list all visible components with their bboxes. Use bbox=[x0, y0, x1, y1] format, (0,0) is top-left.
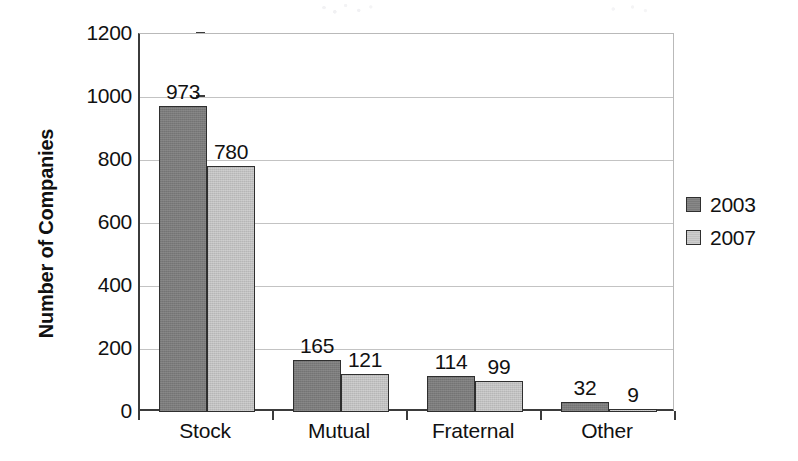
legend-swatch-icon bbox=[686, 230, 701, 245]
legend-label: 2007 bbox=[710, 227, 756, 248]
y-axis-tick-label: 800 bbox=[62, 148, 132, 169]
legend-item-2007[interactable]: 2007 bbox=[686, 221, 756, 254]
x-axis-category-label-stock: Stock bbox=[138, 419, 272, 443]
x-axis-tick-mark bbox=[674, 411, 676, 420]
x-axis-category-label-fraternal: Fraternal bbox=[406, 419, 540, 443]
bar-mutual-2007 bbox=[341, 374, 389, 412]
y-axis-tick-label: 0 bbox=[62, 400, 132, 421]
bar-other-2007 bbox=[609, 409, 657, 412]
legend-swatch-icon bbox=[686, 197, 701, 212]
y-axis-tick-label: 200 bbox=[62, 337, 132, 358]
y-axis-tick-labels: 120010008006004002000 bbox=[58, 33, 132, 411]
bar-value-label: 99 bbox=[461, 356, 537, 377]
scan-artifact-icon bbox=[604, 4, 650, 14]
legend-item-2003[interactable]: 2003 bbox=[686, 188, 756, 221]
x-axis-category-label-mutual: Mutual bbox=[272, 419, 406, 443]
bar-value-label: 121 bbox=[327, 349, 403, 370]
bar-value-label: 780 bbox=[193, 141, 269, 162]
plot-area: 97378016512111499329 bbox=[138, 33, 674, 411]
bar-fraternal-2003 bbox=[427, 376, 475, 412]
y-axis-tick-label: 600 bbox=[62, 211, 132, 232]
x-axis-category-label-other: Other bbox=[540, 419, 674, 443]
bar-value-label: 973 bbox=[145, 81, 221, 102]
y-axis-title: Number of Companies bbox=[35, 104, 58, 364]
y-axis-tick-label: 1000 bbox=[62, 85, 132, 106]
bar-chart-figure: Number of Companies 12001000800600400200… bbox=[0, 0, 798, 461]
bar-stock-2007 bbox=[207, 166, 255, 412]
bar-fraternal-2007 bbox=[475, 381, 523, 412]
y-axis-tick-label: 1200 bbox=[62, 22, 132, 43]
bar-value-label: 9 bbox=[595, 384, 671, 405]
scan-artifact-icon bbox=[318, 2, 378, 16]
chart-legend: 20032007 bbox=[686, 188, 756, 254]
legend-label: 2003 bbox=[710, 194, 756, 215]
y-axis-tick-label: 400 bbox=[62, 274, 132, 295]
